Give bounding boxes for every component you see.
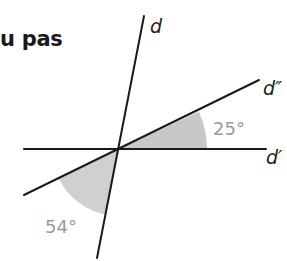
label-line-d-double-prime: d″ (263, 77, 282, 99)
label-line-d-prime: d′ (266, 146, 283, 168)
angle-54-sector (58, 149, 119, 215)
line-d (97, 16, 144, 258)
label-angle-54: 54° (45, 216, 77, 237)
intersecting-lines-figure: d d′ d″ 25° 54° (0, 0, 287, 261)
label-angle-25: 25° (213, 118, 245, 139)
label-line-d: d (150, 15, 163, 37)
angle-25-sector (119, 112, 207, 149)
